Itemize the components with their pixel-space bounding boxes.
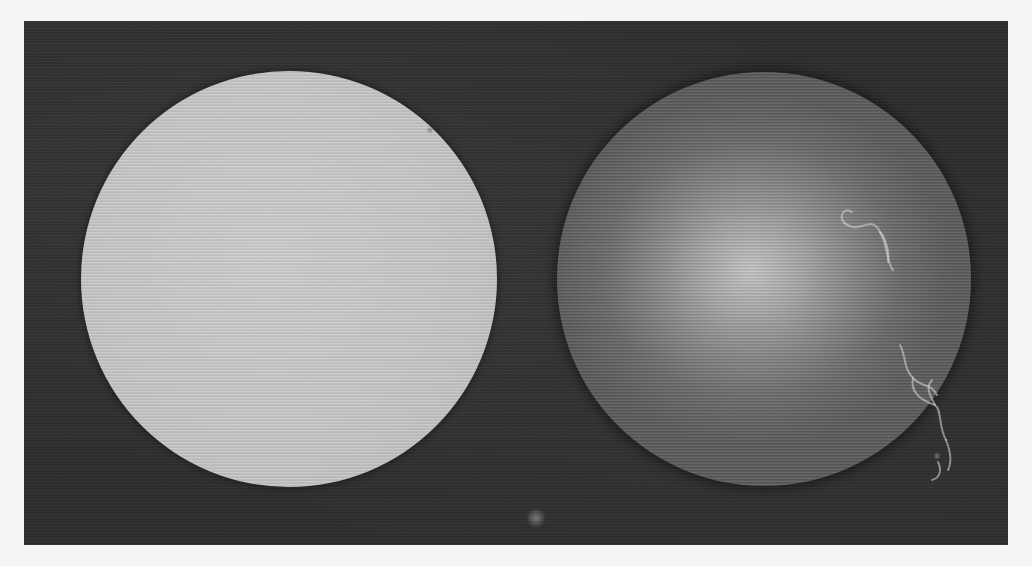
fiber-streak (929, 380, 935, 405)
fiber-streak (932, 462, 940, 480)
fiber-streak (946, 440, 950, 470)
photo-canvas (0, 0, 1032, 566)
fiber-streak (900, 345, 937, 395)
dust-speck (426, 126, 434, 134)
dust-speck (933, 452, 941, 460)
dust-speck (526, 508, 546, 528)
fiber-streaks (0, 0, 1032, 566)
